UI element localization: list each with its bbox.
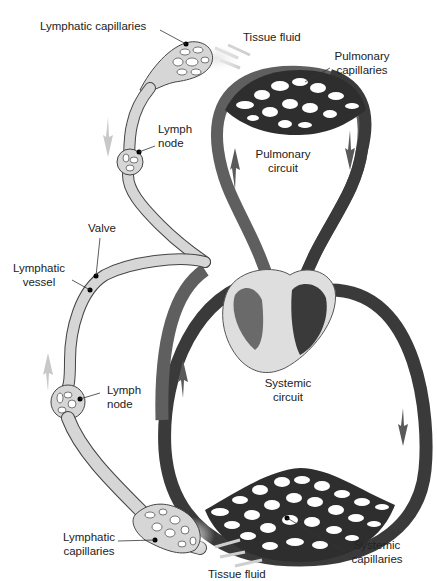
label-systemic-capillaries: Systemic capillaries <box>344 538 410 566</box>
diagram-canvas <box>0 0 437 581</box>
label-tissue-fluid-bottom: Tissue fluid <box>208 567 266 581</box>
heart <box>223 270 336 373</box>
label-lymphatic-capillaries-top: Lymphatic capillaries <box>40 19 146 33</box>
lymphatic-capillaries-top <box>140 42 245 92</box>
label-systemic-circuit: Systemic circuit <box>258 376 318 404</box>
lymph-flow-arrows <box>43 117 113 392</box>
label-tissue-fluid-top: Tissue fluid <box>243 30 301 44</box>
label-pulmonary-capillaries: Pulmonary capillaries <box>332 49 392 77</box>
label-lymph-node-bottom: Lymph node <box>107 383 141 411</box>
label-lymph-node-top: Lymph node <box>158 122 192 150</box>
down-arrow-icon <box>103 117 113 157</box>
label-valve: Valve <box>88 221 116 235</box>
label-pulmonary-circuit: Pulmonary circuit <box>253 147 313 175</box>
up-arrow-icon <box>43 353 53 392</box>
down-arrow-icon <box>398 408 408 446</box>
label-lymphatic-vessel: Lymphatic vessel <box>8 261 70 289</box>
label-lymphatic-capillaries-bottom: Lymphatic capillaries <box>56 530 122 558</box>
lymphatic-vessel <box>51 88 205 548</box>
lymphatic-capillaries-bottom <box>133 504 215 553</box>
